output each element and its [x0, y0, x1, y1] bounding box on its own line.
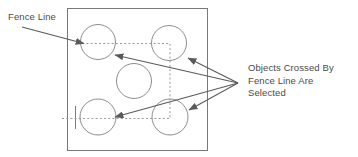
leader-to-bottom-right-circle [189, 83, 238, 110]
circle-top-right [152, 26, 187, 61]
diagram-canvas: Fence Line Objects Crossed By Fence Line… [0, 0, 358, 157]
circle-top-left [81, 25, 116, 60]
objects-crossed-line-2: Fence Line Are [248, 75, 334, 88]
leader-fence-line [22, 27, 84, 44]
fence-line-label: Fence Line [8, 11, 56, 24]
objects-crossed-line-3: Selected [248, 87, 334, 100]
circle-middle [117, 64, 152, 99]
leader-to-bottom-left-circle [115, 83, 238, 117]
circle-bottom-left [80, 99, 116, 135]
leader-to-top-right-circle [188, 58, 238, 83]
objects-crossed-label: Objects Crossed By Fence Line Are Select… [248, 62, 334, 100]
objects-crossed-line-1: Objects Crossed By [248, 62, 334, 75]
boundary-rectangle [68, 9, 208, 151]
